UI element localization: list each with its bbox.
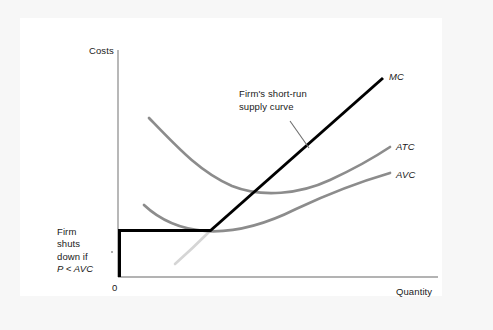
shutdown-annotation: Firm shuts down if P < AVC (55, 224, 111, 279)
y-axis-label: Costs (89, 45, 114, 56)
atc-curve (149, 118, 390, 193)
supply-curve-annotation: Firm's short-run supply curve (239, 88, 307, 113)
origin-label: 0 (112, 282, 117, 293)
avc-curve-label: AVC (396, 169, 416, 180)
atc-curve-label: ATC (396, 141, 415, 152)
shutdown-annotation-line4: P < AVC (57, 263, 109, 275)
shutdown-annotation-line3: down if (57, 251, 109, 263)
supply-curve-annotation-line2: supply curve (239, 101, 307, 114)
shutdown-annotation-line1: Firm (57, 226, 109, 238)
supply-curve-annotation-line1: Firm's short-run (239, 88, 307, 101)
cost-curves-chart (0, 0, 493, 330)
mc-curve-label: MC (389, 71, 404, 82)
supply-curve-leader-line (290, 121, 309, 148)
shutdown-annotation-line2: shuts (57, 238, 109, 250)
figure-container: Costs Quantity 0 MC ATC AVC Firm's short… (0, 0, 493, 330)
mc-curve-faint-segment (175, 231, 210, 264)
x-axis-label: Quantity (396, 286, 432, 297)
